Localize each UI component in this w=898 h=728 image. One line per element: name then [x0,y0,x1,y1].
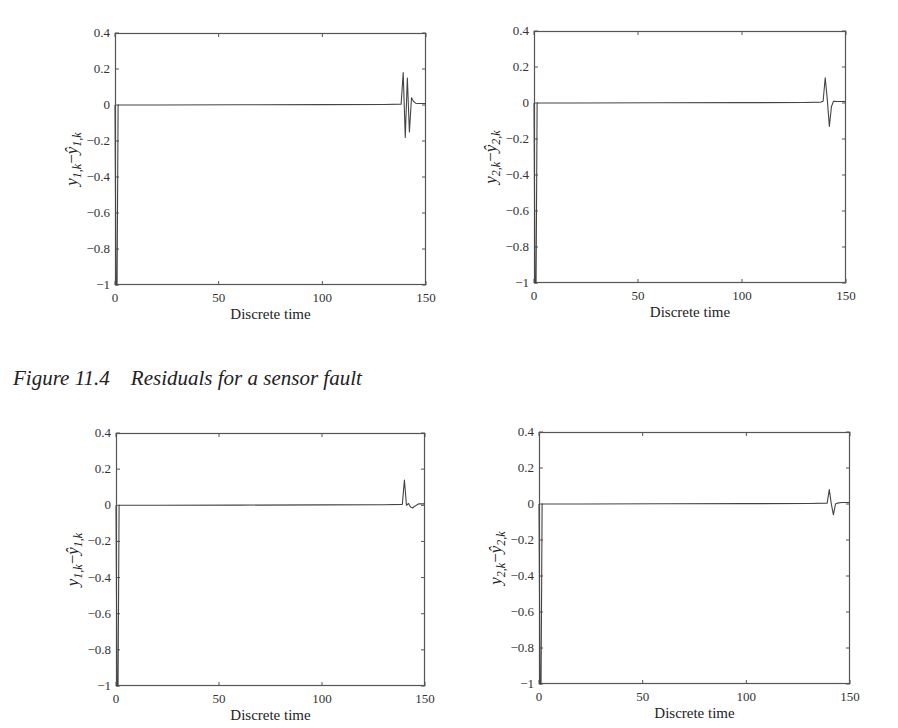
y-tick-label: 0 [105,497,112,512]
y-axis-label: y1,k−ŷ1,k [62,132,84,188]
x-tick-label: 0 [531,288,538,303]
y-tick-label: −1 [96,277,110,292]
y-axis-label: y2,k−ŷ2,k [486,531,508,587]
plot-area: 0.40.20−0.2−0.4−0.6−0.8−1050100150Discre… [115,33,426,285]
x-tick-label: 150 [415,691,435,706]
y-tick-label: −0.8 [87,642,111,657]
x-tick-label: 100 [313,290,333,305]
y-tick-label: 0.2 [518,460,534,475]
figure-number: Figure 11.4 [13,366,110,390]
figure-caption: Figure 11.4 Residuals for a sensor fault [13,366,362,391]
axes-frame [116,34,426,285]
y-tick-label: −0.6 [86,205,110,220]
y-tick-label: −0.8 [86,241,110,256]
residual-line [539,490,850,684]
y-axis-label: y1,k−ŷ1,k [63,532,85,588]
chart-top-right: 0.40.20−0.2−0.4−0.6−0.8−1050100150Discre… [534,31,846,283]
y-tick-label: −0.6 [510,604,534,619]
x-axis-label: Discrete time [230,306,311,322]
y-tick-label: −1 [97,678,111,693]
chart-bottom-right: 0.40.20−0.2−0.4−0.6−0.8−1050100150Discre… [539,432,850,684]
y-tick-label: 0.4 [513,23,530,38]
y-tick-label: −0.6 [87,606,111,621]
axes-frame [117,434,425,686]
x-tick-label: 0 [112,290,119,305]
y-tick-label: 0.2 [95,461,111,476]
x-tick-label: 0 [536,689,543,704]
x-tick-label: 0 [113,691,120,706]
chart-bottom-left: 0.40.20−0.2−0.4−0.6−0.8−1050100150Discre… [116,433,425,686]
x-tick-label: 50 [636,689,649,704]
y-tick-label: −0.8 [510,640,534,655]
x-tick-label: 100 [312,691,332,706]
x-tick-label: 100 [732,288,752,303]
y-tick-label: −0.6 [505,203,529,218]
plot-area: 0.40.20−0.2−0.4−0.6−0.8−1050100150Discre… [534,31,846,283]
y-tick-label: 0.2 [513,59,529,74]
y-tick-label: 0.4 [518,424,535,439]
y-tick-label: 0 [528,496,535,511]
x-axis-label: Discrete time [650,304,731,320]
axes-frame [535,32,846,283]
y-tick-label: −1 [515,275,529,290]
y-tick-label: 0 [104,97,111,112]
figure-caption-text: Residuals for a sensor fault [131,366,362,390]
y-tick-label: −1 [520,676,534,691]
x-tick-label: 50 [212,290,225,305]
y-tick-label: 0.4 [95,425,112,440]
y-tick-label: 0.4 [94,25,111,40]
residual-line [116,480,425,686]
x-axis-label: Discrete time [230,707,311,723]
plot-area: 0.40.20−0.2−0.4−0.6−0.8−1050100150Discre… [116,433,425,686]
y-tick-label: −0.2 [86,133,110,148]
x-tick-label: 50 [213,691,226,706]
y-tick-label: −0.2 [87,533,111,548]
x-tick-label: 150 [416,290,436,305]
x-axis-label: Discrete time [654,705,735,721]
chart-top-left: 0.40.20−0.2−0.4−0.6−0.8−1050100150Discre… [115,33,426,285]
x-tick-label: 150 [836,288,856,303]
y-tick-label: −0.4 [505,167,529,182]
y-tick-label: 0.2 [94,61,110,76]
plot-area: 0.40.20−0.2−0.4−0.6−0.8−1050100150Discre… [539,432,850,684]
y-tick-label: −0.2 [510,532,534,547]
x-tick-label: 50 [632,288,645,303]
axes-frame [540,433,850,684]
y-tick-label: −0.8 [505,239,529,254]
x-tick-label: 150 [840,689,860,704]
y-tick-label: −0.2 [505,131,529,146]
x-tick-label: 100 [737,689,757,704]
residual-line [115,73,426,285]
y-axis-label: y2,k−ŷ2,k [481,130,503,186]
y-tick-label: −0.4 [86,169,110,184]
y-tick-label: −0.4 [510,568,534,583]
y-tick-label: −0.4 [87,570,111,585]
y-tick-label: 0 [523,95,530,110]
residual-line [534,78,846,283]
